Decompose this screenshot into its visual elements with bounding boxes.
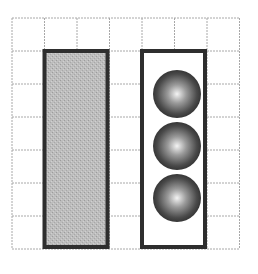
figure xyxy=(0,0,258,274)
ball xyxy=(153,122,201,170)
ball xyxy=(153,174,201,222)
balls xyxy=(153,70,201,222)
shaded-rectangle xyxy=(45,51,108,247)
ball xyxy=(153,70,201,118)
